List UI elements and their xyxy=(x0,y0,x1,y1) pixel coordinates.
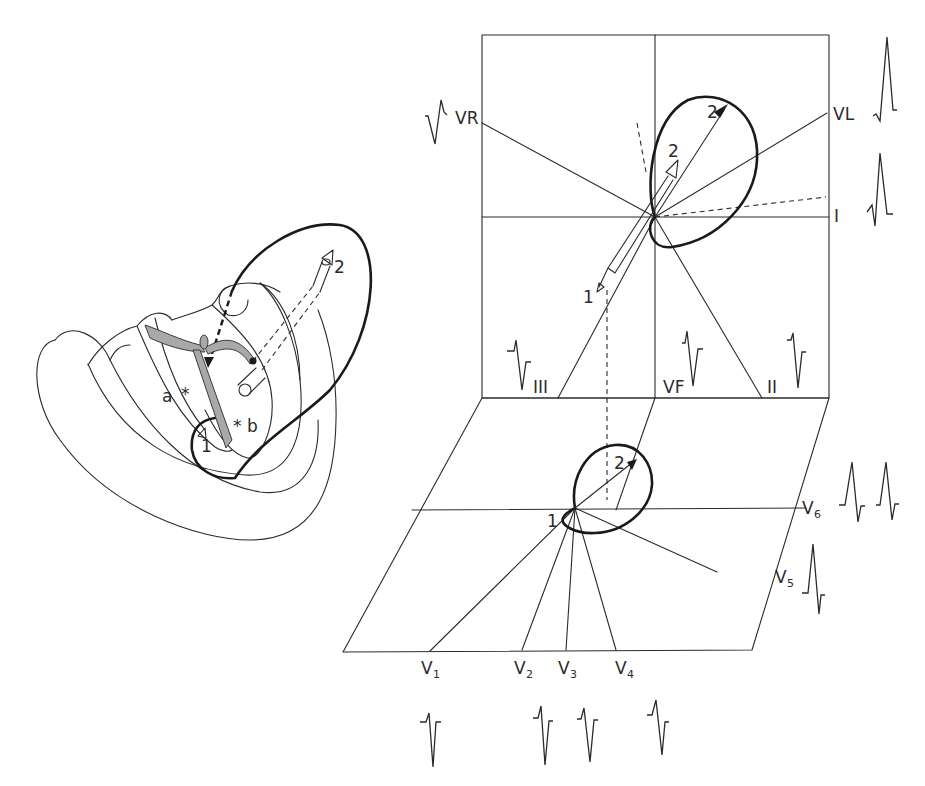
lead-label-III: III xyxy=(533,377,548,397)
heart-vector2-base xyxy=(322,259,330,265)
lead-VL-axis xyxy=(655,113,827,217)
his-bundle xyxy=(145,325,205,352)
heart-label-1: 1 xyxy=(201,436,212,456)
svg-text:6: 6 xyxy=(814,508,821,521)
vectorcardiogram-diagram: 2 a * * b 1 2 2 1 VR VL I II xyxy=(0,0,925,786)
heart-label-2: 2 xyxy=(334,257,345,277)
ecg-III xyxy=(507,340,531,390)
ecg-V4 xyxy=(647,700,669,755)
ecg-V6-b xyxy=(876,462,899,520)
heart-asterisk-b: * xyxy=(233,416,242,436)
lead-V4-axis xyxy=(575,508,616,650)
lead-II-axis xyxy=(655,217,762,398)
ecg-V5 xyxy=(802,544,825,614)
lead-label-V1: V1 xyxy=(421,658,440,681)
frontal-cylinder-arrowhead xyxy=(666,160,678,178)
heart-asterisk-a: * xyxy=(181,384,190,404)
lead-label-VF: VF xyxy=(663,377,684,397)
svg-text:2: 2 xyxy=(526,668,533,681)
ecg-VL xyxy=(873,37,897,121)
heart-vector2-shaft xyxy=(313,262,330,292)
svg-text:V: V xyxy=(558,658,570,678)
heart-label-a: a xyxy=(162,386,172,406)
heart-cylinder-end xyxy=(239,384,251,396)
svg-text:3: 3 xyxy=(570,668,577,681)
lead-label-V6: V6 xyxy=(802,498,821,521)
svg-text:V: V xyxy=(802,498,814,518)
svg-text:V: V xyxy=(775,567,787,587)
lead-V6-axis xyxy=(412,508,806,510)
frontal-cylinder-vector xyxy=(608,176,673,273)
horizontal-vector2-arrowhead xyxy=(627,459,637,470)
frontal-vector1-arrowhead xyxy=(597,283,604,292)
lead-label-II: II xyxy=(767,377,777,397)
ecg-V3 xyxy=(577,708,598,762)
horizontal-plane-frame xyxy=(343,398,829,652)
frontal-label-1: 1 xyxy=(583,287,594,307)
heart-label-b: b xyxy=(247,416,258,436)
frontal-plane: 2 2 1 VR VL I II III VF xyxy=(425,35,897,500)
ecg-VF xyxy=(682,331,703,386)
lead-label-VR: VR xyxy=(455,108,479,128)
lead-label-I: I xyxy=(834,206,839,226)
heart-vector2-shaft-hidden xyxy=(253,286,320,370)
horizontal-plane: 2 1 V1 V2 V3 V4 V5 V6 xyxy=(343,398,899,767)
lead-III-axis xyxy=(558,217,655,398)
heart-septum-top xyxy=(172,283,280,320)
left-bundle-branch xyxy=(205,340,255,364)
frontal-vector2-line xyxy=(655,110,724,217)
ecg-II xyxy=(787,333,806,388)
lead-VR-axis xyxy=(482,123,655,217)
lead-V5-axis xyxy=(575,508,717,572)
svg-text:V: V xyxy=(514,658,526,678)
ecg-V1 xyxy=(420,713,441,767)
ecg-I xyxy=(867,153,893,226)
frontal-label-2-arrow: 2 xyxy=(668,141,679,161)
lead-label-V2: V2 xyxy=(514,658,533,681)
lead-label-V4: V4 xyxy=(615,658,634,681)
ecg-V2 xyxy=(533,706,553,765)
svg-text:5: 5 xyxy=(787,577,794,590)
lead-label-V3: V3 xyxy=(558,658,577,681)
ecg-VR xyxy=(425,100,447,144)
svg-text:V: V xyxy=(615,658,627,678)
lead-label-V5: V5 xyxy=(775,567,794,590)
svg-text:1: 1 xyxy=(433,668,440,681)
heart-vector2-arrowhead xyxy=(322,250,333,265)
horizontal-label-1: 1 xyxy=(547,511,558,531)
ecg-V6-a xyxy=(839,462,865,522)
svg-text:4: 4 xyxy=(627,668,634,681)
av-node xyxy=(200,335,208,349)
horizontal-label-2: 2 xyxy=(614,453,625,473)
svg-text:V: V xyxy=(421,658,433,678)
lead-label-VL: VL xyxy=(833,104,855,124)
frontal-label-2-loop: 2 xyxy=(707,102,718,122)
heart-illustration: 2 a * * b 1 xyxy=(37,224,371,540)
frontal-dashed-ref-top xyxy=(637,123,646,172)
